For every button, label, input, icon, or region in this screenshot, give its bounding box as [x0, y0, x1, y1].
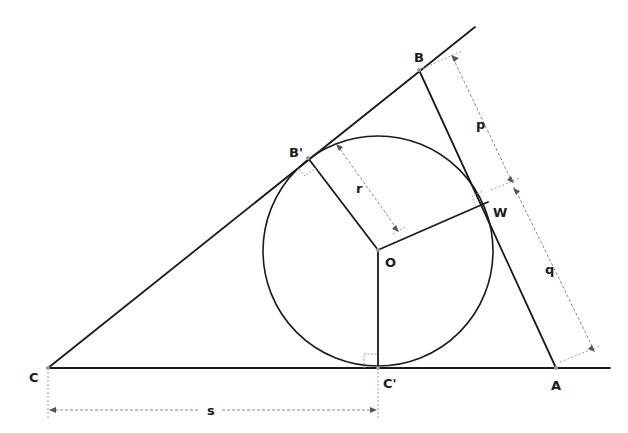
arrow-r-top — [336, 144, 343, 151]
incircle-diagram: B B' W O C C' A r p q s — [0, 0, 628, 433]
extension-w — [491, 178, 520, 190]
radius-o-b-prime — [308, 158, 378, 250]
arrow-s-left — [49, 407, 56, 413]
label-s: s — [207, 403, 215, 418]
point-b — [417, 68, 421, 72]
label-c: C — [29, 370, 39, 385]
point-o — [376, 248, 380, 252]
dimension-line-r — [337, 145, 397, 229]
label-a: A — [551, 378, 561, 393]
radius-o-w — [378, 202, 488, 250]
point-c — [46, 366, 50, 370]
line-c-extended-through-b — [48, 27, 475, 368]
label-o: O — [385, 255, 396, 270]
arrow-s-right — [370, 407, 377, 413]
label-q: q — [545, 262, 554, 277]
arrow-q-top — [513, 188, 520, 195]
label-b-prime: B' — [289, 145, 303, 160]
arrow-p-top — [451, 55, 459, 62]
right-angle-mark-b-prime — [297, 167, 316, 176]
label-c-prime: C' — [383, 376, 397, 391]
extension-a — [560, 346, 600, 362]
label-r: r — [356, 181, 363, 196]
point-a — [554, 366, 558, 370]
label-p: p — [476, 117, 485, 132]
point-b-prime — [306, 156, 310, 160]
label-w: W — [493, 205, 507, 220]
label-b: B — [414, 50, 424, 65]
side-b-a — [419, 70, 556, 368]
point-c-prime — [376, 366, 380, 370]
